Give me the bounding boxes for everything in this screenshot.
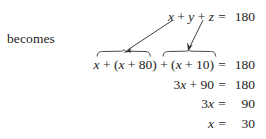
equation-original-rhs: 180 [230,9,255,25]
equation-substituted-lhs: x + (x + 80) + (x + 10) [94,57,214,73]
equation-simplified-lhs: 3x [201,96,214,112]
equation-substituted-rhs: 180 [230,57,255,73]
equation-simplified-rhs: 90 [230,96,255,112]
equation-combined: 3x + 90=180 [173,77,255,93]
y-substitution-arrow-shaft [128,20,174,50]
equation-combined-equals: = [214,77,230,93]
equation-simplified: 3x=90 [201,96,255,112]
equation-combined-lhs: 3x + 90 [173,77,214,93]
equation-substituted: x + (x + 80) + (x + 10)=180 [94,57,255,73]
right-overbrace-icon [163,50,216,57]
equation-original-lhs: x + y + z [168,9,214,25]
equation-original: x + y + z=180 [168,9,255,25]
equation-solution-equals: = [214,116,230,132]
y-substitution-arrow-head [123,48,132,53]
equation-original-equals: = [214,9,230,25]
left-overbrace-icon [97,50,150,57]
equation-simplified-equals: = [214,96,230,112]
equation-substituted-equals: = [214,57,230,73]
equation-combined-rhs: 180 [230,77,255,93]
equation-solution: x=30 [208,116,255,132]
becomes-label: becomes [7,31,55,47]
worked-example-figure: becomes x + y + z=180 x + (x + 80) + (x … [0,0,266,139]
equation-solution-rhs: 30 [230,116,255,132]
z-substitution-arrow-head [187,42,193,51]
